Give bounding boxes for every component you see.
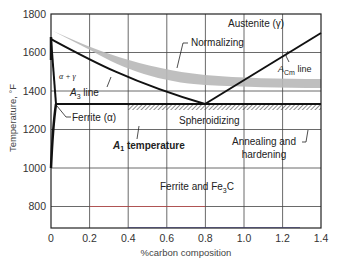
label-spheroidizing: Spheroidizing: [179, 115, 240, 126]
iron-carbon-phase-chart: 1800 1600 1400 1200 1000 800 0 0.2 0.4 0…: [0, 0, 338, 265]
label-acm-line: ACm line: [277, 64, 311, 76]
a1-leader: [137, 126, 139, 139]
label-normalizing: Normalizing: [191, 37, 244, 48]
label-austenite: Austenite (γ): [228, 18, 284, 29]
y-tick-1800: 1800: [23, 8, 47, 20]
x-tick-0.4: 0.4: [121, 232, 136, 244]
annealing-leader: [302, 130, 308, 142]
x-tick-1.0: 1.0: [237, 232, 252, 244]
x-tick-0: 0: [48, 232, 54, 244]
y-tick-1600: 1600: [23, 46, 47, 58]
x-axis-ticks: 0 0.2 0.4 0.6 0.8 1.0 1.2 1.4: [48, 232, 328, 244]
y-axis-ticks: 1800 1600 1400 1200 1000 800: [23, 8, 47, 212]
label-ferrite: Ferrite (α): [72, 112, 116, 123]
x-tick-1.2: 1.2: [275, 232, 290, 244]
phase-lines: [51, 33, 321, 168]
x-tick-0.2: 0.2: [82, 232, 97, 244]
label-a1-temperature: A1 temperature: [112, 140, 185, 152]
x-axis-label: %carbon composition: [141, 247, 232, 258]
y-tick-800: 800: [28, 200, 46, 212]
y-tick-1000: 1000: [23, 162, 47, 174]
x-tick-1.4: 1.4: [314, 232, 329, 244]
ferrite-leader: [57, 106, 71, 117]
normalizing-band: [53, 31, 321, 88]
ferrite-solvus: [51, 104, 56, 168]
x-tick-0.8: 0.8: [198, 232, 213, 244]
label-alpha-gamma: α + γ: [59, 72, 77, 81]
spheroidizing-hatch-band: [128, 105, 321, 110]
label-a3-line: A3 line: [69, 87, 99, 100]
x-tick-0.6: 0.6: [159, 232, 174, 244]
a3-leader: [107, 77, 111, 87]
y-tick-1400: 1400: [23, 85, 47, 97]
y-tick-1200: 1200: [23, 123, 47, 135]
label-annealing: Annealing and: [232, 136, 296, 147]
y-axis-label: Temperature, °F: [7, 84, 18, 152]
label-ferrite-fe3c: Ferrite and Fe3C: [160, 181, 234, 194]
normalizing-leader: [177, 43, 188, 68]
label-hardening: hardening: [242, 149, 286, 160]
